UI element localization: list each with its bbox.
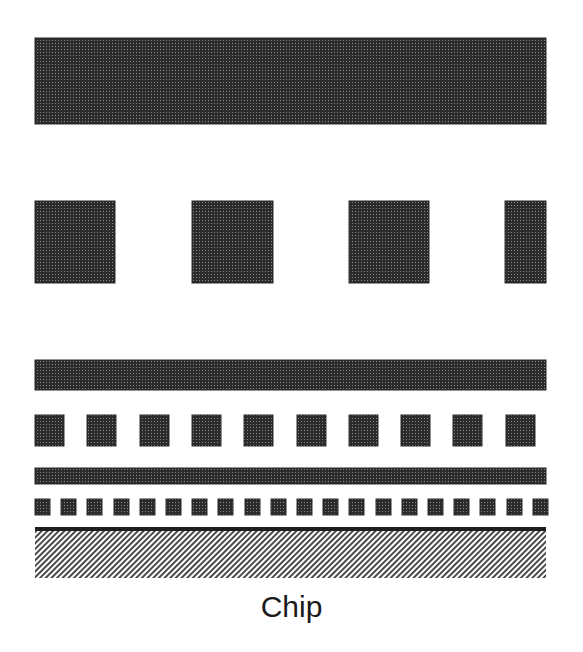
medium-pads-8 — [401, 415, 430, 446]
large-pads-4 — [505, 201, 546, 283]
small-pads-20 — [533, 499, 548, 515]
small-pads-19 — [507, 499, 522, 515]
thin-bar — [35, 468, 546, 484]
medium-pads-10 — [506, 415, 535, 446]
medium-pads-2 — [87, 415, 116, 446]
small-pads-15 — [402, 499, 417, 515]
medium-pads-1 — [35, 415, 64, 446]
small-pads-6 — [166, 499, 181, 515]
large-pads-3 — [349, 201, 429, 283]
small-pads-17 — [454, 499, 469, 515]
small-pads-3 — [87, 499, 102, 515]
small-pads-8 — [218, 499, 233, 515]
chip-label: Chip — [0, 590, 583, 624]
small-pads-10 — [271, 499, 286, 515]
chip-layers-graphic — [0, 0, 583, 652]
medium-pads-3 — [140, 415, 169, 446]
medium-pads-4 — [192, 415, 221, 446]
small-pads-2 — [61, 499, 76, 515]
chip-surface-line — [35, 527, 546, 531]
medium-pads-5 — [244, 415, 273, 446]
small-pads-4 — [114, 499, 129, 515]
small-pads-1 — [35, 499, 50, 515]
small-pads-11 — [297, 499, 312, 515]
small-pads-5 — [140, 499, 155, 515]
chip-substrate — [35, 531, 546, 578]
small-pads-7 — [192, 499, 207, 515]
medium-pads-7 — [349, 415, 378, 446]
middle-bar — [35, 360, 546, 390]
large-pads-2 — [192, 201, 273, 283]
medium-pads-6 — [297, 415, 326, 446]
chip-cross-section-diagram: Chip — [0, 0, 583, 652]
medium-pads-9 — [453, 415, 482, 446]
layers-group — [35, 38, 548, 578]
small-pads-16 — [428, 499, 443, 515]
wide-top-bar — [35, 38, 546, 124]
small-pads-13 — [349, 499, 364, 515]
large-pads-1 — [35, 201, 115, 283]
small-pads-14 — [376, 499, 391, 515]
small-pads-9 — [245, 499, 260, 515]
small-pads-18 — [480, 499, 495, 515]
small-pads-12 — [323, 499, 338, 515]
